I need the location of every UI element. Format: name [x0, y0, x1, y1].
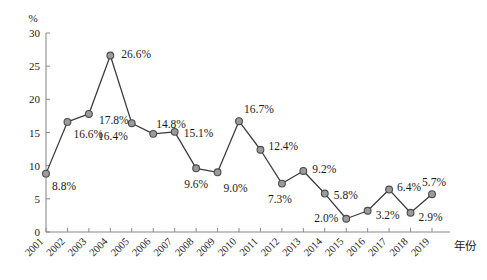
y-tick-label: 10: [29, 160, 41, 172]
data-point-label: 12.4%: [268, 140, 298, 152]
data-point-marker: [85, 111, 92, 118]
y-tick-label: 5: [35, 193, 41, 205]
data-point-label: 7.3%: [268, 193, 292, 205]
x-tick-label: 2015: [323, 236, 346, 259]
x-tick-label: 2008: [173, 236, 196, 259]
data-point-label: 2.9%: [419, 211, 443, 223]
x-axis: 2001200220032004200520062007200820092010…: [23, 228, 450, 258]
x-tick-label: 2013: [280, 236, 303, 259]
x-tick-label: 2012: [259, 236, 282, 259]
x-tick-label: 2007: [151, 236, 174, 259]
x-tick-label: 2018: [387, 236, 410, 259]
data-point-marker: [321, 190, 328, 197]
data-point-label: 15.1%: [184, 127, 214, 139]
x-tick-label: 2005: [109, 236, 132, 259]
data-point-label: 9.0%: [224, 182, 248, 194]
y-tick-label: 25: [29, 60, 41, 72]
data-point-label: 2.0%: [314, 212, 338, 224]
data-point-label: 9.2%: [312, 163, 336, 175]
x-tick-label: 2009: [194, 236, 217, 259]
data-point-marker: [150, 130, 157, 137]
x-tick-label: 2011: [237, 236, 259, 258]
data-point-marker: [429, 191, 436, 198]
x-tick-label: 2006: [130, 236, 153, 259]
data-point-marker: [300, 168, 307, 175]
data-point-marker: [193, 165, 200, 172]
data-point-marker: [236, 118, 243, 125]
data-point-marker: [278, 180, 285, 187]
data-point-label: 17.8%: [99, 114, 129, 126]
data-point-label: 8.8%: [52, 180, 76, 192]
x-tick-label: 2017: [366, 236, 389, 259]
data-point-label: 5.8%: [334, 189, 358, 201]
data-point-marker: [343, 215, 350, 222]
data-point-marker: [257, 146, 264, 153]
data-point-marker: [214, 169, 221, 176]
y-tick-label: 20: [29, 93, 41, 105]
data-point-marker: [107, 52, 114, 59]
data-point-marker: [64, 118, 71, 125]
x-tick-label: 2003: [66, 236, 89, 259]
data-point-marker: [128, 120, 135, 127]
chart-canvas: 051015202530 200120022003200420052006200…: [0, 0, 487, 280]
x-tick-label: 2019: [409, 236, 432, 259]
data-point-label: 9.6%: [184, 178, 208, 190]
y-tick-label: 15: [29, 127, 41, 139]
data-point-label: 5.7%: [422, 176, 446, 188]
data-point-label: 6.4%: [397, 181, 421, 193]
x-axis-title: 年份: [454, 239, 477, 252]
data-point-marker: [407, 209, 414, 216]
data-point-label: 3.2%: [376, 209, 400, 221]
data-point-label: 16.4%: [98, 130, 128, 142]
x-tick-label: 2010: [216, 236, 239, 259]
data-point-marker: [43, 170, 50, 177]
data-point-marker: [386, 186, 393, 193]
y-tick-label: 30: [29, 27, 41, 39]
data-point-label: 26.6%: [121, 48, 151, 60]
line-chart-figure: 051015202530 200120022003200420052006200…: [0, 0, 487, 280]
y-axis: 051015202530: [29, 27, 50, 238]
data-point-label: 14.8%: [156, 118, 186, 130]
x-tick-label: 2001: [23, 236, 46, 259]
x-tick-label: 2016: [344, 236, 367, 259]
x-tick-label: 2014: [302, 235, 325, 258]
x-tick-label: 2002: [44, 236, 67, 259]
data-point-label: 16.7%: [244, 103, 274, 115]
data-point-marker: [364, 207, 371, 214]
x-tick-label: 2004: [87, 235, 110, 258]
y-axis-unit-label: %: [28, 12, 37, 24]
